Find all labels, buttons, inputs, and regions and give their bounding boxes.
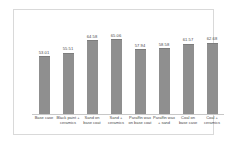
- bar-rect: [87, 40, 98, 114]
- bar-rect: [63, 53, 74, 114]
- bar-group: 62.68: [200, 24, 224, 114]
- bar-group: 57.94: [128, 24, 152, 114]
- bar-value-label: 65.06: [111, 33, 122, 38]
- bar-group: 53.01: [32, 24, 56, 114]
- bar-rect: [159, 48, 170, 114]
- bar-value-label: 57.94: [135, 43, 146, 48]
- x-axis-tick-label: Coal + ceramics: [200, 116, 224, 142]
- chart-plot-frame: 53.0155.5164.5865.0657.9458.5861.5762.68…: [13, 9, 214, 135]
- bar-rect: [39, 56, 50, 114]
- x-axis-tick-label: Black paint + ceramics: [56, 116, 80, 142]
- chart-plot-area: 53.0155.5164.5865.0657.9458.5861.5762.68: [32, 24, 224, 114]
- bar-value-label: 62.68: [207, 36, 218, 41]
- bar-group: 55.51: [56, 24, 80, 114]
- bar-rect: [207, 43, 218, 114]
- bar-group: 64.58: [80, 24, 104, 114]
- bar-group: 65.06: [104, 24, 128, 114]
- bar-value-label: 61.57: [183, 37, 194, 42]
- bar-rect: [111, 39, 122, 114]
- bar-value-label: 53.01: [39, 50, 50, 55]
- x-axis-tick-label: Sand on base coat: [80, 116, 104, 142]
- bar-rect: [183, 44, 194, 114]
- bar-series: 53.0155.5164.5865.0657.9458.5861.5762.68: [32, 24, 224, 114]
- x-axis-tick-label: Sand + ceramics: [104, 116, 128, 142]
- x-axis-category-labels: Base caseBlack paint + ceramicsSand on b…: [32, 116, 224, 142]
- bar-value-label: 58.58: [159, 42, 170, 47]
- x-axis-tick-label: Paraffin wax + sand: [152, 116, 176, 142]
- bar-group: 58.58: [152, 24, 176, 114]
- x-axis-tick-label: Paraffin wax on base coat: [128, 116, 152, 142]
- bar-group: 61.57: [176, 24, 200, 114]
- bar-value-label: 55.51: [63, 46, 74, 51]
- bar-value-label: 64.58: [87, 34, 98, 39]
- bar-rect: [135, 49, 146, 114]
- x-axis-tick-label: Base case: [32, 116, 56, 142]
- bar-chart-figure: 53.0155.5164.5865.0657.9458.5861.5762.68…: [0, 0, 225, 144]
- x-axis-tick-label: Coal on base case: [176, 116, 200, 142]
